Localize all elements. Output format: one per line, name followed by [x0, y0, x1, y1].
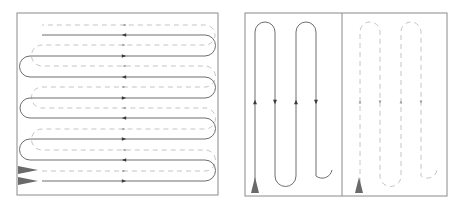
solid-direction-arrow-icon — [122, 54, 126, 58]
left-panel-horizontal-sweeps — [17, 13, 218, 195]
dashed-direction-arrow-icon — [420, 100, 423, 103]
dashed-direction-arrow-icon — [122, 24, 125, 27]
dashed-direction-arrow-icon — [122, 44, 125, 47]
dashed-direction-arrow-icon — [122, 128, 125, 131]
solid-direction-arrow-icon — [294, 100, 298, 104]
solid-direction-arrow-icon — [122, 96, 126, 100]
dashed-direction-arrow-icon — [122, 86, 125, 89]
solid-vertical-coverage-path — [255, 22, 332, 187]
dashed-direction-arrow-icon — [122, 170, 125, 173]
start-marker-icon — [18, 177, 38, 185]
dashed-direction-arrow-icon — [379, 100, 382, 103]
coverage-path-diagram — [0, 0, 466, 206]
dashed-direction-arrow-icon — [122, 149, 125, 152]
start-marker-icon — [355, 177, 363, 193]
solid-direction-arrow-icon — [122, 33, 126, 37]
left-frame — [17, 13, 218, 195]
dashed-direction-arrow-icon — [400, 100, 403, 103]
solid-direction-arrow-icon — [122, 179, 126, 183]
solid-direction-arrow-icon — [122, 75, 126, 79]
solid-direction-arrow-icon — [314, 100, 318, 104]
dashed-direction-arrow-icon — [122, 107, 125, 110]
solid-direction-arrow-icon — [122, 137, 126, 141]
solid-direction-arrow-icon — [122, 158, 126, 162]
solid-direction-arrow-icon — [253, 100, 257, 104]
dashed-direction-arrow-icon — [359, 100, 362, 103]
dashed-vertical-coverage-path — [360, 22, 437, 187]
right-panel-vertical-sweeps — [245, 13, 447, 196]
start-marker-icon — [251, 177, 259, 193]
solid-direction-arrow-icon — [122, 116, 126, 120]
dashed-direction-arrow-icon — [122, 65, 125, 68]
start-marker-icon — [18, 166, 38, 174]
solid-direction-arrow-icon — [273, 100, 277, 104]
